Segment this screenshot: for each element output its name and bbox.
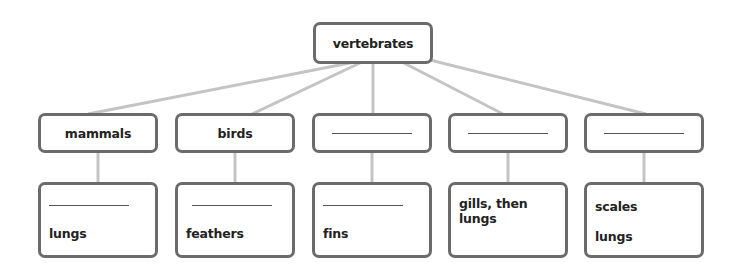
fill-in-blank[interactable]: [604, 133, 684, 134]
group-node-birds: birds: [175, 113, 295, 153]
group-node-blank-3[interactable]: [312, 113, 432, 153]
fill-in-blank[interactable]: [323, 205, 403, 206]
traits-node-4: gills, then lungs: [448, 182, 568, 258]
traits-node-3: fins: [312, 182, 432, 258]
trait-label: fins: [323, 226, 348, 241]
group-node-blank-4[interactable]: [448, 113, 568, 153]
group-label: birds: [218, 126, 253, 141]
trait-label: feathers: [186, 226, 244, 241]
group-node-blank-5[interactable]: [584, 113, 704, 153]
traits-node-mammals: lungs: [38, 182, 158, 258]
traits-node-5: scales lungs: [584, 182, 704, 258]
group-node-mammals: mammals: [38, 113, 158, 153]
trait-label: lungs: [595, 229, 632, 244]
fill-in-blank[interactable]: [468, 133, 548, 134]
fill-in-blank[interactable]: [192, 205, 272, 206]
traits-node-birds: feathers: [175, 182, 295, 258]
fill-in-blank[interactable]: [49, 205, 129, 206]
trait-label: gills, then lungs: [459, 196, 565, 226]
trait-label: scales: [595, 199, 637, 214]
group-label: mammals: [65, 126, 131, 141]
trait-label: lungs: [49, 226, 86, 241]
root-node: vertebrates: [313, 22, 433, 64]
root-label: vertebrates: [333, 36, 413, 51]
fill-in-blank[interactable]: [332, 133, 412, 134]
